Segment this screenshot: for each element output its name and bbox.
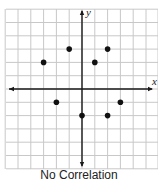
data-point — [66, 46, 72, 52]
data-point — [105, 113, 111, 119]
data-point — [54, 100, 60, 106]
x-axis-label: x — [151, 75, 157, 87]
chart-caption: No Correlation — [0, 168, 158, 180]
data-point — [118, 100, 124, 106]
data-point — [79, 113, 85, 119]
data-point — [41, 60, 47, 66]
data-point — [92, 60, 98, 66]
data-point — [105, 46, 111, 52]
y-axis-label: y — [85, 6, 91, 18]
scatter-plot: x y — [0, 0, 158, 170]
